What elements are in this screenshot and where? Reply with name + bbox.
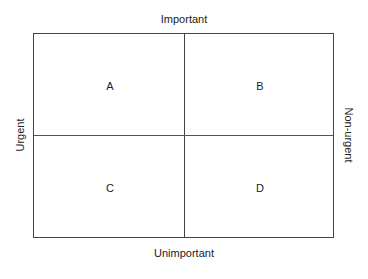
- axis-label-urgent: Urgent: [14, 118, 26, 151]
- quadrant-d: D: [240, 182, 280, 194]
- quadrant-a: A: [90, 80, 130, 92]
- quadrant-b: B: [240, 80, 280, 92]
- horizontal-divider: [34, 135, 333, 136]
- axis-label-unimportant: Unimportant: [0, 247, 368, 259]
- priority-matrix: A B C D: [33, 33, 334, 238]
- axis-label-important: Important: [0, 13, 368, 25]
- axis-label-non-urgent: Non-urgent: [343, 107, 355, 162]
- quadrant-c: C: [90, 182, 130, 194]
